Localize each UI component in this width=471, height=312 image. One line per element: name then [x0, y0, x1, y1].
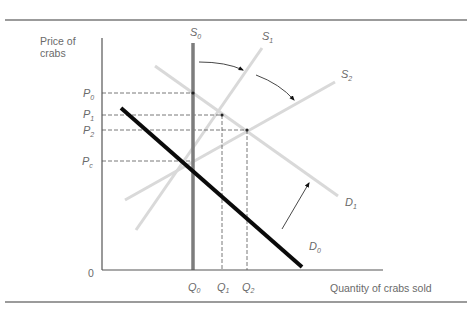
curve-label-s0: S0: [190, 26, 201, 40]
supply-demand-diagram: Price of crabs Quantity of crabs sold 0 …: [0, 0, 471, 312]
curve-label-d0: D0: [309, 240, 321, 254]
price-label-pc: Pc: [82, 155, 93, 169]
quantity-label-q0: Q0: [188, 281, 201, 294]
point-p1: [220, 113, 223, 116]
curve-label-d1: D1: [345, 196, 357, 210]
price-label-p2: P2: [83, 124, 94, 138]
y-axis-label-line1: Price of: [40, 35, 76, 47]
y-axis-label-line2: crabs: [40, 47, 66, 59]
price-label-p1: P1: [83, 108, 94, 122]
rotation-arrow-s0-s1: [199, 62, 243, 70]
dashed-guides: [102, 93, 247, 270]
quantity-label-q1: Q1: [217, 281, 230, 294]
quantity-label-q2: Q2: [242, 281, 255, 294]
shift-arrow-d0-d1: [282, 183, 309, 229]
rotation-arrow-s1-s2: [256, 75, 294, 100]
origin-label: 0: [88, 267, 94, 279]
curve-label-s2: S2: [341, 68, 352, 82]
price-label-p0: P0: [83, 87, 94, 101]
point-p2: [245, 128, 248, 131]
curve-label-s1: S1: [262, 30, 273, 44]
point-p0: [191, 91, 194, 94]
x-axis-label: Quantity of crabs sold: [330, 282, 432, 294]
